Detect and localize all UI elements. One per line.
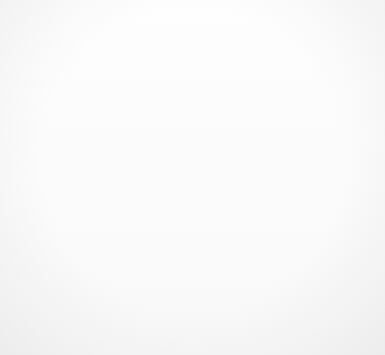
scanned-page-scene: So the top hat got scared and the tux as… [0,0,385,355]
poem-line-5: OH such a [143,146,202,158]
diamond-square-outline [339,127,364,152]
lace-net-svg [244,228,376,300]
poem-line-1: So the top hat [74,31,156,69]
short-tick-bar [222,197,231,216]
chevron-bar-upper [44,207,72,257]
lace-net-blob [244,228,376,300]
poem-line-3: and the tux as well [91,82,221,110]
long-bar-lovely-lace-right [154,196,221,218]
long-bar-above-lovely-lace [98,188,146,202]
poem-line-7: scarf as well [105,228,176,260]
letter-f-block [4,57,91,195]
arrowhead-blob [52,301,72,325]
poem-line-4: then the [145,128,198,140]
chevron-bar-lower [14,254,57,320]
diamond-slash-glyph [325,115,369,159]
